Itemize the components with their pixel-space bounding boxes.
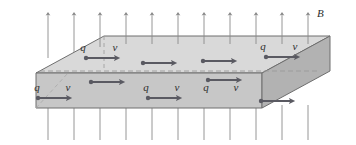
charge-dot xyxy=(84,56,88,60)
charge-dot xyxy=(259,99,263,103)
charge-label-q: q xyxy=(143,81,149,93)
charge-dot xyxy=(264,55,268,59)
slab-magnetic-field-diagram: B q v q xyxy=(0,0,356,145)
velocity-label-v: v xyxy=(175,81,180,93)
velocity-label-v: v xyxy=(293,40,298,52)
charge-label-q: q xyxy=(203,81,209,93)
field-lines-bottom-group xyxy=(48,105,308,140)
velocity-label-v: v xyxy=(113,41,118,53)
charge-dot xyxy=(146,96,150,100)
field-label-B: B xyxy=(317,7,324,19)
charge-label-q: q xyxy=(34,81,40,93)
charge-dot xyxy=(89,80,93,84)
velocity-label-v: v xyxy=(66,81,71,93)
charge-label-q: q xyxy=(260,40,266,52)
charge-label-q: q xyxy=(80,41,86,53)
velocity-label-v: v xyxy=(234,81,239,93)
charge-dot xyxy=(36,96,40,100)
charge-dot xyxy=(141,61,145,65)
charge-dot xyxy=(201,59,205,63)
physics-figure: B q v q xyxy=(0,0,356,145)
